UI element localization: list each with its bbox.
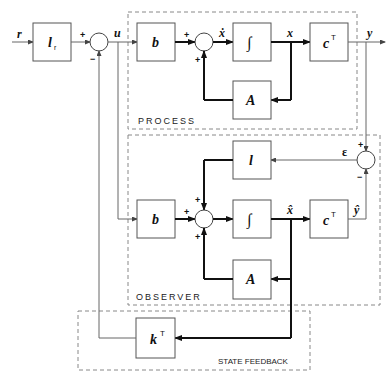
sign-plus: + [184,30,189,40]
process-label: PROCESS [138,116,196,126]
summing-junction-input [90,33,108,51]
observer-A-label: A [245,272,255,287]
process-c-sup: T [331,33,336,42]
observer-c-sup: T [331,210,336,219]
summing-junction-error [357,151,375,169]
observer-b-label: b [152,212,159,227]
signal-yhat: ŷ [352,203,360,217]
sign-plus: + [195,55,200,65]
signal-epsilon: ε [342,145,347,159]
sign-plus: + [358,140,363,150]
summing-junction-observer [195,210,213,228]
prefilter-label: l [48,35,52,50]
process-b-label: b [152,35,159,50]
summing-junction-process [195,33,213,51]
signal-y: y [365,26,373,40]
block-diagram: PROCESS OBSERVER STATE FEEDBACK r l r + … [0,0,392,382]
observer-l-label: l [249,153,253,168]
signal-u: u [114,26,121,40]
process-integrator-block [233,23,271,61]
signal-xhat: x̂ [286,203,293,217]
sign-plus: + [195,232,200,242]
sign-plus: + [80,30,85,40]
observer-label: OBSERVER [136,292,202,302]
process-c-label: c [323,36,330,51]
signal-r: r [17,27,22,41]
feedback-k-label: k [150,332,157,347]
signal-x: x [286,26,293,40]
state-feedback-label: STATE FEEDBACK [218,357,289,366]
sign-minus: − [90,54,95,64]
sign-plus: + [195,195,200,205]
signal-xdot: ẋ [218,26,225,40]
sign-minus: − [357,172,362,182]
observer-c-label: c [323,213,330,228]
sign-plus: + [184,207,189,217]
feedback-k-sup: T [160,329,165,338]
prefilter-block [33,23,71,61]
process-A-label: A [245,93,255,108]
observer-integrator-block [233,200,271,238]
